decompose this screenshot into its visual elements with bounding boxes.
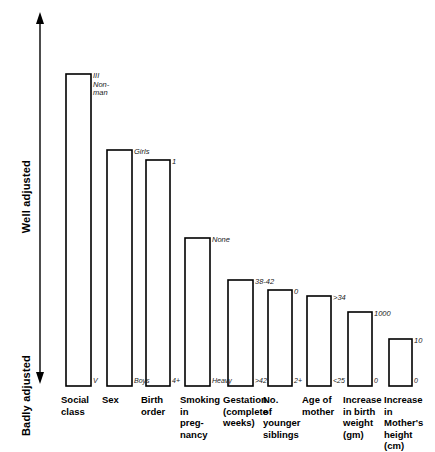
axis-label-badly-adjusted: Badly adjusted <box>20 355 32 436</box>
bar <box>66 74 91 386</box>
bar-bottom-value-label: 0 <box>374 377 378 384</box>
bar <box>107 150 132 386</box>
bar-top-value-label: 38-42 <box>255 278 274 287</box>
bar <box>348 312 372 386</box>
bar-top-value-label: 10 <box>414 337 422 346</box>
bar-bottom-value-label: 0 <box>414 377 418 384</box>
bar-top-value-label: Girls <box>134 148 149 157</box>
bar-bottom-value-label: V <box>93 377 98 384</box>
bar-bottom-value-label: <25 <box>333 377 345 384</box>
bar-bottom-value-label: 4+ <box>172 377 180 384</box>
axis-label-well-adjusted: Well adjusted <box>20 160 32 233</box>
bar <box>146 160 170 386</box>
bar-top-value-label: 0 <box>294 288 298 297</box>
bar-series <box>66 74 412 386</box>
bar-bottom-value-label: 2+ <box>294 377 302 384</box>
bar-bottom-value-label: >42 <box>255 377 267 384</box>
bar-top-value-label: None <box>212 236 230 245</box>
bar <box>307 296 331 386</box>
bar-top-value-label: 1000 <box>374 310 391 319</box>
bar-top-value-label: 1 <box>172 158 176 167</box>
category-label: Smoking in preg- nancy <box>180 394 226 440</box>
category-label: Social class <box>61 394 107 417</box>
category-label: Increase in birth weight (gm) <box>343 394 389 440</box>
bar-bottom-value-label: Heavy <box>212 377 232 384</box>
bar <box>268 290 292 386</box>
category-label: Increase in Mother's height (cm) <box>384 394 430 452</box>
bar <box>389 339 412 386</box>
bar-bottom-value-label: Boys <box>134 377 150 384</box>
y-axis-double-arrow <box>36 12 44 384</box>
bar <box>228 280 253 386</box>
category-label: Age of mother <box>302 394 348 417</box>
bar-top-value-label: >34 <box>333 294 346 303</box>
bar <box>185 238 210 386</box>
bar-top-value-label: III Non- man <box>93 72 109 98</box>
